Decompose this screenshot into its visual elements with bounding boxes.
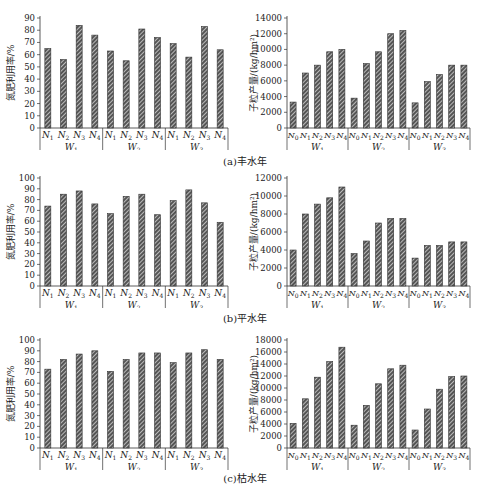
x-tick-label: N2 (433, 451, 445, 461)
x-tick-label: N3 (135, 450, 148, 461)
bar (376, 52, 382, 128)
bar (400, 365, 406, 448)
x-tick-label: N1 (104, 450, 117, 461)
bar (45, 369, 51, 448)
bar (437, 75, 443, 128)
bar (45, 206, 51, 286)
group-label: W1 (65, 462, 78, 470)
x-tick-label: N3 (323, 131, 335, 141)
y-tick-label: 10 (24, 432, 35, 442)
x-tick-label: N1 (41, 130, 54, 141)
y-tick-label: 100 (19, 173, 35, 183)
x-tick-label: N3 (384, 451, 396, 461)
bar (61, 194, 67, 286)
x-tick-label: N4 (335, 289, 347, 299)
group-label: W1 (65, 142, 78, 150)
bar (339, 187, 345, 286)
x-tick-label: N2 (372, 289, 384, 299)
x-tick-label: N2 (372, 451, 384, 461)
bar (376, 384, 382, 448)
x-tick-label: N4 (396, 131, 408, 141)
x-tick-label: N2 (119, 130, 132, 141)
y-tick-label: 80 (24, 25, 35, 35)
x-tick-label: N2 (182, 450, 195, 461)
y-axis-label: 氮肥利用率/% (5, 365, 16, 422)
chart-a-left: 0102030405060708090氮肥利用率/%N1N2N3N4W1N1N2… (0, 0, 245, 150)
bar (76, 354, 82, 448)
bar (76, 191, 82, 286)
bar (339, 49, 345, 128)
bar (461, 65, 467, 128)
chart-a-right: 02000400060008000100001200014000子粒产量/(kg… (245, 0, 490, 150)
y-tick-label: 60 (24, 378, 35, 388)
x-tick-label: N3 (198, 130, 211, 141)
x-tick-label: N3 (72, 288, 85, 299)
x-tick-label: N3 (198, 288, 211, 299)
y-tick-label: 60 (24, 50, 35, 60)
y-tick-label: 90 (24, 184, 35, 194)
x-tick-label: N1 (41, 450, 54, 461)
x-tick-label: N0 (348, 131, 360, 141)
bar (123, 61, 129, 128)
bar (155, 215, 161, 286)
bar (61, 359, 67, 448)
y-tick-label: 4000 (260, 92, 282, 102)
y-axis-label: 子粒产量/(kg/hm²) (248, 34, 259, 112)
y-tick-label: 40 (24, 238, 35, 248)
y-tick-label: 12000 (255, 29, 282, 39)
x-tick-label: N2 (57, 450, 70, 461)
y-tick-label: 70 (24, 37, 35, 47)
x-tick-label: N2 (311, 131, 323, 141)
y-tick-label: 30 (24, 411, 35, 421)
bar (170, 363, 176, 448)
bar (139, 29, 145, 128)
x-tick-label: N1 (421, 451, 433, 461)
x-tick-label: N3 (135, 288, 148, 299)
x-tick-label: N2 (182, 288, 195, 299)
y-tick-label: 10000 (255, 191, 282, 201)
bar (461, 242, 467, 286)
y-axis-label: 子粒产量/(kg/hm²) (248, 193, 259, 271)
y-tick-label: 90 (24, 13, 35, 23)
x-tick-label: N2 (57, 130, 70, 141)
x-tick-label: N2 (311, 451, 323, 461)
group-label: W1 (65, 300, 78, 308)
x-tick-label: N2 (119, 288, 132, 299)
x-tick-label: N1 (421, 131, 433, 141)
group-label: W2 (127, 462, 140, 470)
group-label: W2 (372, 142, 385, 150)
y-tick-label: 50 (24, 389, 35, 399)
y-tick-label: 4000 (260, 419, 282, 429)
y-tick-label: 0 (30, 281, 35, 291)
y-tick-label: 20 (24, 421, 35, 431)
y-axis-label: 氮肥利用率/% (5, 44, 16, 101)
x-tick-label: N0 (409, 451, 421, 461)
bar (290, 102, 296, 128)
x-tick-label: N1 (360, 131, 372, 141)
y-tick-label: 2000 (260, 431, 282, 441)
x-tick-label: N4 (335, 451, 347, 461)
bar (186, 190, 192, 286)
bar (139, 353, 145, 448)
bar (363, 64, 369, 128)
x-tick-label: N0 (348, 451, 360, 461)
bar (437, 246, 443, 287)
bar (327, 198, 333, 286)
x-tick-label: N0 (287, 451, 299, 461)
y-tick-label: 70 (24, 367, 35, 377)
y-tick-label: 8000 (260, 395, 282, 405)
bar (449, 242, 455, 286)
bar (363, 405, 369, 448)
bar (155, 38, 161, 128)
x-tick-label: N4 (151, 288, 164, 299)
bar (202, 27, 208, 128)
y-tick-label: 30 (24, 249, 35, 259)
x-tick-label: N1 (299, 289, 311, 299)
x-tick-label: N3 (135, 130, 148, 141)
bar (217, 50, 223, 128)
group-label: W3 (190, 300, 203, 308)
x-tick-label: N2 (57, 288, 70, 299)
y-tick-label: 16000 (255, 347, 282, 357)
bar (92, 204, 98, 286)
x-tick-label: N3 (323, 289, 335, 299)
